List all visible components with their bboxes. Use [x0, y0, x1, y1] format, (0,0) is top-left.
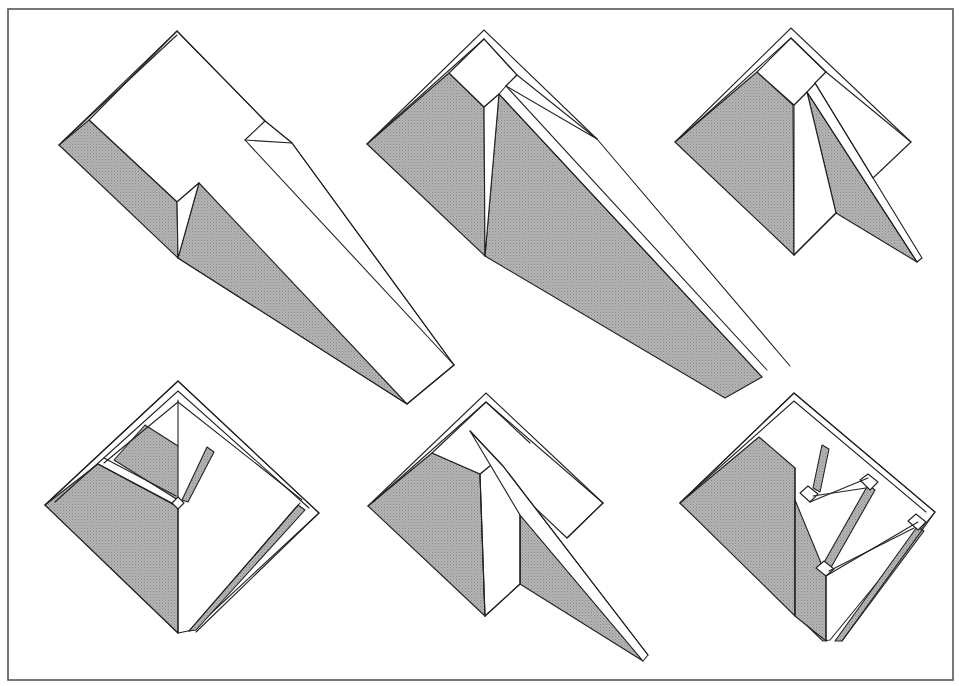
shaded-face — [680, 437, 795, 616]
diagram-canvas — [0, 0, 959, 686]
shaded-face — [368, 453, 485, 616]
folding-diagram — [0, 0, 959, 686]
figure-top-left — [59, 31, 454, 404]
figure-bottom-center — [368, 393, 648, 661]
shaded-face — [675, 72, 794, 255]
figure-bottom-right — [680, 393, 935, 641]
figure-top-right — [675, 28, 922, 262]
figures-group — [45, 28, 935, 661]
figure-bottom-left — [45, 381, 319, 633]
shaded-face — [367, 73, 485, 256]
